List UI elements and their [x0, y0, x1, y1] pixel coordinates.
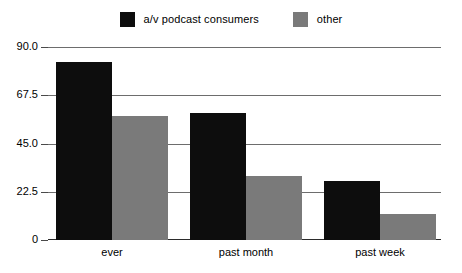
y-axis-tick-mark — [41, 95, 48, 96]
legend-entry-1: other — [293, 12, 343, 27]
bars-layer — [48, 47, 441, 240]
y-axis-tick-mark — [41, 144, 48, 145]
legend-label-1: other — [317, 14, 343, 25]
legend-swatch-icon-0 — [120, 12, 135, 27]
x-axis-tick-label: ever — [36, 246, 188, 258]
y-axis-tick-label: 0 — [32, 234, 38, 245]
bar-past-month-other — [246, 176, 302, 240]
y-axis-tick-mark — [41, 240, 48, 241]
legend-entry-0: a/v podcast consumers — [120, 12, 259, 27]
y-axis-tick-label: 90.0 — [17, 41, 38, 52]
x-axis-tick-label: past month — [170, 246, 322, 258]
bar-ever-a-v-podcast-consumers — [56, 62, 112, 240]
y-axis-tick-mark — [41, 47, 48, 48]
chart-legend: a/v podcast consumers other — [0, 12, 462, 27]
legend-label-0: a/v podcast consumers — [144, 14, 259, 25]
x-axis-tick-label: past week — [304, 246, 456, 258]
bar-past-week-other — [380, 214, 436, 240]
bar-past-month-a-v-podcast-consumers — [190, 113, 246, 240]
y-axis-tick-label: 22.5 — [17, 186, 38, 197]
y-axis: 90.067.545.022.50 — [0, 47, 44, 240]
y-axis-tick-label: 45.0 — [17, 138, 38, 149]
y-axis-tick-label: 67.5 — [17, 89, 38, 100]
x-axis-category-labels: everpast monthpast week — [48, 246, 441, 262]
y-axis-tick-mark — [41, 192, 48, 193]
bar-chart: a/v podcast consumers other 90.067.545.0… — [0, 0, 462, 273]
legend-swatch-icon-1 — [293, 12, 308, 27]
bar-past-week-a-v-podcast-consumers — [324, 181, 380, 240]
bar-ever-other — [112, 116, 168, 240]
